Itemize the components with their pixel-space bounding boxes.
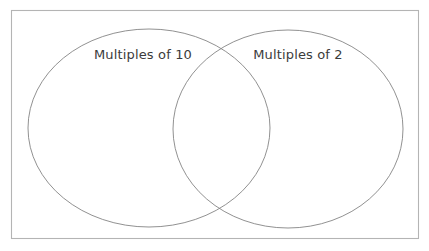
venn-diagram-canvas: Multiples of 10 Multiples of 2 bbox=[0, 0, 429, 251]
set-label-left: Multiples of 10 bbox=[94, 47, 192, 62]
set-label-right: Multiples of 2 bbox=[253, 47, 343, 62]
venn-diagram-svg: Multiples of 10 Multiples of 2 bbox=[0, 0, 429, 251]
